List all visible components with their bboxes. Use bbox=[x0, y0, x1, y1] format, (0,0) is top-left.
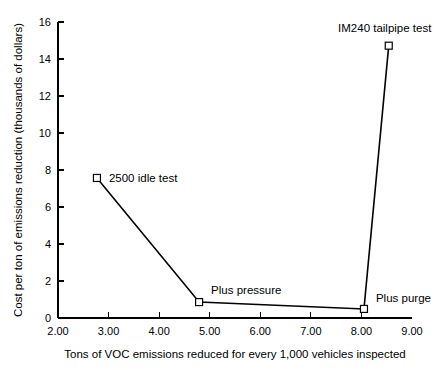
x-tick-label: 7.00 bbox=[300, 325, 321, 337]
y-tick-label: 6 bbox=[45, 201, 51, 213]
chart-container: 0246810121416 Cost per ton of emissions … bbox=[0, 0, 448, 370]
y-tick-label: 10 bbox=[39, 127, 51, 139]
x-axis-group: 2.003.004.005.006.007.008.009.00 Tons of… bbox=[47, 312, 422, 360]
y-tick-label: 4 bbox=[45, 238, 51, 250]
x-axis-ticks: 2.003.004.005.006.007.008.009.00 bbox=[47, 312, 422, 337]
x-tick-label: 5.00 bbox=[199, 325, 220, 337]
data-point-label: Plus purge bbox=[376, 292, 431, 304]
y-tick-label: 8 bbox=[45, 164, 51, 176]
data-point-marker bbox=[385, 42, 392, 49]
y-axis-group: 0246810121416 Cost per ton of emissions … bbox=[12, 16, 64, 324]
y-tick-label: 14 bbox=[39, 53, 51, 65]
x-tick-label: 4.00 bbox=[148, 325, 169, 337]
y-tick-label: 16 bbox=[39, 16, 51, 28]
y-tick-label: 0 bbox=[45, 312, 51, 324]
x-axis-title: Tons of VOC emissions reduced for every … bbox=[64, 348, 405, 360]
y-tick-label: 12 bbox=[39, 90, 51, 102]
y-axis-ticks: 0246810121416 bbox=[39, 16, 64, 324]
x-tick-label: 6.00 bbox=[250, 325, 271, 337]
data-point-label: Plus pressure bbox=[211, 284, 281, 296]
y-tick-label: 2 bbox=[45, 275, 51, 287]
data-point-marker bbox=[196, 299, 203, 306]
x-tick-label: 2.00 bbox=[47, 325, 68, 337]
x-tick-label: 3.00 bbox=[98, 325, 119, 337]
emissions-cost-line-chart: 0246810121416 Cost per ton of emissions … bbox=[0, 0, 448, 370]
data-point-marker bbox=[93, 174, 100, 181]
data-point-label: 2500 idle test bbox=[109, 172, 178, 184]
series-group: 2500 idle testPlus pressurePlus purgeIM2… bbox=[93, 22, 432, 313]
data-point-marker bbox=[360, 305, 367, 312]
x-tick-label: 9.00 bbox=[401, 325, 422, 337]
data-point-label: IM240 tailpipe test bbox=[338, 22, 432, 34]
y-axis-title: Cost per ton of emissions reduction (tho… bbox=[12, 23, 24, 317]
x-tick-label: 8.00 bbox=[351, 325, 372, 337]
